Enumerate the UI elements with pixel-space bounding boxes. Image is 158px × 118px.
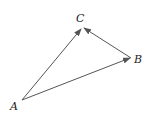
point-label-c: C	[76, 12, 85, 25]
point-label-b: B	[133, 53, 142, 66]
vector-diagram: A B C	[0, 0, 158, 118]
vector-a-to-b	[22, 58, 130, 100]
point-label-a: A	[9, 100, 18, 113]
vector-b-to-c	[84, 28, 131, 58]
vector-a-to-c	[22, 29, 81, 100]
